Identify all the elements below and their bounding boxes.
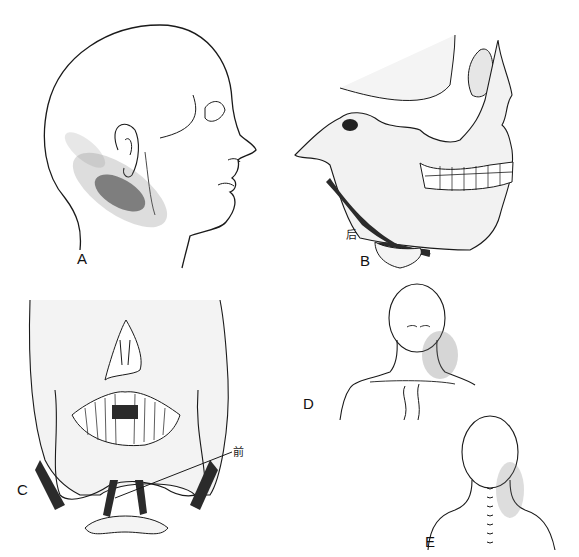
panel-b: 后 B xyxy=(280,0,579,280)
panel-c: 前 C xyxy=(0,280,300,557)
frontal-head-neck-illustration xyxy=(300,280,579,430)
annotation-anterior: 前 xyxy=(233,443,244,459)
posterior-head-neck-illustration xyxy=(300,410,579,557)
panel-label-c: C xyxy=(17,481,28,498)
panel-label-b: B xyxy=(360,252,370,269)
stipple-pattern-a xyxy=(59,126,178,241)
panel-d: D xyxy=(300,280,579,430)
lateral-skull-illustration xyxy=(280,0,579,280)
annotation-posterior: 后 xyxy=(346,226,357,242)
lateral-head-illustration xyxy=(0,0,290,280)
frontal-skull-illustration xyxy=(0,280,300,557)
panel-a: A xyxy=(0,0,290,280)
panel-label-a: A xyxy=(77,250,87,267)
panel-label-e: E xyxy=(425,533,435,550)
panel-e: E xyxy=(300,410,579,557)
